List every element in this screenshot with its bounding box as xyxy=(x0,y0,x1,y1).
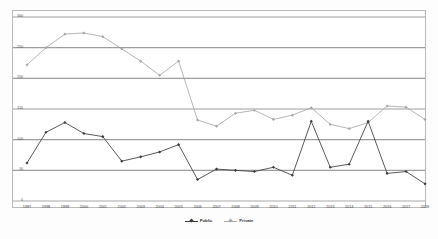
legend-item-private[interactable]: Private xyxy=(224,219,253,223)
x-tick-1997: 1997 xyxy=(17,205,37,209)
x-tick-2004: 2004 xyxy=(150,205,170,209)
x-tick-2014: 2014 xyxy=(339,205,359,209)
x-tick-2017: 2017 xyxy=(396,205,416,209)
gridlines xyxy=(13,17,425,201)
legend-label-private: Private xyxy=(239,219,253,223)
legend-swatch-public xyxy=(185,219,198,223)
x-tick-2011: 2011 xyxy=(282,205,302,209)
x-tick-2015: 2015 xyxy=(358,205,378,209)
legend-swatch-private xyxy=(224,219,237,223)
y-tick-0: 0 xyxy=(7,199,23,203)
x-tick-2018: 2018 xyxy=(415,205,435,209)
x-tick-2016: 2016 xyxy=(377,205,397,209)
x-tick-2008: 2008 xyxy=(225,205,245,209)
chart-legend: Public Private xyxy=(0,219,438,223)
x-tick-2001: 2001 xyxy=(93,205,113,209)
y-tick-250: 250 xyxy=(7,46,23,50)
x-tick-2010: 2010 xyxy=(263,205,283,209)
x-tick-2007: 2007 xyxy=(207,205,227,209)
series-private xyxy=(25,31,426,130)
x-tick-2013: 2013 xyxy=(320,205,340,209)
series-public xyxy=(25,120,426,186)
legend-item-public[interactable]: Public xyxy=(185,219,213,223)
x-tick-2000: 2000 xyxy=(74,205,94,209)
y-tick-50: 50 xyxy=(7,168,23,172)
x-tick-1999: 1999 xyxy=(55,205,75,209)
x-tick-2012: 2012 xyxy=(301,205,321,209)
legend-label-public: Public xyxy=(200,219,213,223)
x-tick-2005: 2005 xyxy=(169,205,189,209)
x-tick-2006: 2006 xyxy=(188,205,208,209)
x-tick-2009: 2009 xyxy=(244,205,264,209)
y-tick-100: 100 xyxy=(7,138,23,142)
x-tick-2003: 2003 xyxy=(131,205,151,209)
x-tick-1998: 1998 xyxy=(36,205,56,209)
y-tick-150: 150 xyxy=(7,107,23,111)
y-tick-200: 200 xyxy=(7,76,23,80)
line-chart: 300250200150100500 199719981999200020012… xyxy=(0,0,438,239)
y-tick-300: 300 xyxy=(7,15,23,19)
x-tick-2002: 2002 xyxy=(112,205,132,209)
